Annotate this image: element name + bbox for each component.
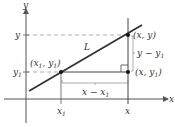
run-brace [62, 80, 128, 85]
tick-y1: y1 [12, 67, 22, 78]
tick-x: x [125, 106, 130, 116]
x-axis-label: x [169, 94, 174, 104]
slope-diagram: x y L x − x1 y − y1 (x1, y1) (x, y) (x, … [0, 0, 175, 127]
line-L-label: L [83, 42, 90, 52]
rise-brace [131, 36, 135, 71]
point-x1-y1 [59, 70, 63, 74]
point-x-y1-label: (x, y1) [135, 67, 162, 78]
point-x-y1 [126, 70, 130, 74]
y-axis-label: y [22, 0, 29, 10]
rise-label: y − y1 [136, 48, 164, 59]
point-x-y-label: (x, y) [133, 30, 156, 40]
run-label: x − x1 [82, 87, 109, 98]
tick-x1: x1 [57, 106, 66, 117]
tick-y: y [14, 30, 21, 40]
point-x-y [126, 33, 130, 37]
point-x1-y1-label: (x1, y1) [30, 58, 61, 69]
